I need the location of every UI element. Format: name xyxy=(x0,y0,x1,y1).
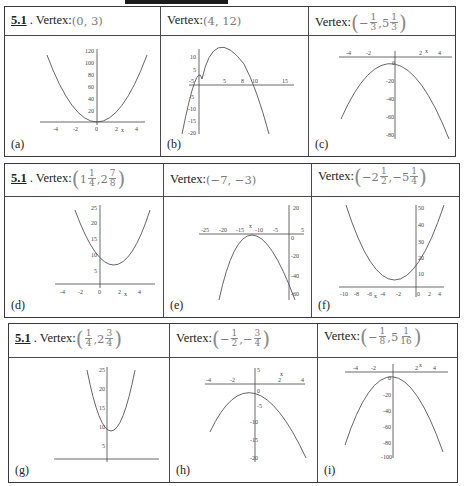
svg-text:20: 20 xyxy=(99,386,105,392)
svg-text:-40: -40 xyxy=(383,408,391,414)
vertex-label: Vertex: xyxy=(170,172,206,187)
svg-text:-60: -60 xyxy=(386,114,394,120)
svg-text:-2: -2 xyxy=(73,126,78,132)
svg-text:5: 5 xyxy=(257,367,260,373)
section-number: 5.1 xyxy=(15,331,31,346)
svg-text:0: 0 xyxy=(95,126,98,132)
vertex-label: Vertex: xyxy=(36,13,72,28)
svg-text:5: 5 xyxy=(193,67,196,73)
cell-c: Vertex: (−13,513) -4-22x4 0-20-40-60-80 … xyxy=(308,7,457,156)
svg-text:2: 2 xyxy=(428,291,431,297)
svg-text:4: 4 xyxy=(135,126,138,132)
svg-text:40: 40 xyxy=(88,96,94,102)
svg-text:-25: -25 xyxy=(201,227,209,233)
section-number: 5.1 xyxy=(11,13,27,28)
svg-text:-20: -20 xyxy=(188,130,196,136)
svg-text:5: 5 xyxy=(223,78,226,84)
vertex-label: Vertex: xyxy=(40,331,76,346)
svg-text:-20: -20 xyxy=(383,392,391,398)
svg-text:-4: -4 xyxy=(53,126,58,132)
vertex-header: 5.1. Vertex: (14,234) xyxy=(15,329,122,348)
vertex-header: Vertex: (−212,−514) xyxy=(318,167,427,186)
svg-text:-2: -2 xyxy=(78,289,83,295)
svg-text:-20: -20 xyxy=(219,227,227,233)
vertex-header: 5.1. Vertex: (0, 3) xyxy=(11,13,103,28)
vertex-value: (4, 12) xyxy=(203,14,241,28)
svg-text:4: 4 xyxy=(138,289,141,295)
svg-text:120: 120 xyxy=(85,48,94,54)
graph-letter: (i) xyxy=(324,463,335,478)
svg-text:-8: -8 xyxy=(354,291,359,297)
problem-block-3: 5.1. Vertex: (14,234) 252015105 (g) Vert… xyxy=(8,323,458,483)
vertex-value: (−212,−514) xyxy=(354,167,427,186)
vertex-value: (−7, −3) xyxy=(206,173,256,187)
svg-text:50: 50 xyxy=(418,205,424,211)
vertex-label: Vertex: xyxy=(318,169,354,184)
graph-a: 12010080604020 -4-202x4 xyxy=(35,39,150,139)
cell-f: Vertex: (−212,−514) 5040302010 -10-8-6x-… xyxy=(311,164,461,317)
svg-text:20: 20 xyxy=(293,205,299,211)
svg-text:-60: -60 xyxy=(383,424,391,430)
vertex-label: Vertex: xyxy=(167,13,203,28)
svg-text:2: 2 xyxy=(419,50,422,56)
graph-h: -4-22x4 50-5-10-15-20 xyxy=(170,362,310,462)
svg-text:0: 0 xyxy=(257,388,260,394)
vertex-header: 5.1. Vertex: (114,278) xyxy=(11,169,125,188)
svg-text:-5: -5 xyxy=(189,78,194,84)
graph-d: 252015105 -4-202x4 xyxy=(50,200,160,300)
svg-text:-2: -2 xyxy=(230,377,235,383)
vertex-value: (−13,513) xyxy=(351,13,407,32)
vertex-header: Vertex: (−7, −3) xyxy=(170,172,256,187)
svg-text:20: 20 xyxy=(418,255,424,261)
svg-text:-4: -4 xyxy=(60,289,65,295)
vertex-header: Vertex: (−18,5116) xyxy=(324,327,422,346)
graph-letter: (g) xyxy=(15,463,29,478)
svg-text:-60: -60 xyxy=(291,291,299,297)
svg-text:25: 25 xyxy=(99,367,105,373)
vertex-label: Vertex: xyxy=(315,15,351,30)
svg-text:-40: -40 xyxy=(386,96,394,102)
graph-c: -4-22x4 0-20-40-60-80 xyxy=(334,39,454,139)
graph-letter: (a) xyxy=(11,137,24,152)
svg-text:-15: -15 xyxy=(188,118,196,124)
svg-text:-15: -15 xyxy=(250,437,258,443)
svg-text:-10: -10 xyxy=(255,227,263,233)
svg-text:5: 5 xyxy=(102,443,105,449)
graph-letter: (c) xyxy=(315,137,328,152)
svg-text:40: 40 xyxy=(418,222,424,228)
svg-text:-80: -80 xyxy=(383,440,391,446)
svg-text:-40: -40 xyxy=(291,273,299,279)
vertex-value: (14,234) xyxy=(76,329,122,348)
svg-text:4: 4 xyxy=(433,365,436,371)
vertex-value: (0, 3) xyxy=(72,14,103,28)
svg-text:2: 2 xyxy=(278,377,281,383)
svg-text:x: x xyxy=(249,223,252,229)
svg-text:0: 0 xyxy=(388,375,391,381)
svg-text:25: 25 xyxy=(91,205,97,211)
svg-text:0: 0 xyxy=(417,291,420,297)
svg-text:10: 10 xyxy=(99,424,105,430)
graph-letter: (f) xyxy=(318,298,330,313)
vertex-header: Vertex: (−13,513) xyxy=(315,13,407,32)
cell-i: Vertex: (−18,5116) -4-22x4 0-20-40-60-80… xyxy=(317,324,459,482)
svg-text:-4: -4 xyxy=(353,365,358,371)
svg-text:x: x xyxy=(121,127,124,133)
graph-letter: (h) xyxy=(176,463,190,478)
svg-text:10: 10 xyxy=(252,78,258,84)
cell-d: 5.1. Vertex: (114,278) 252015105 -4-202x… xyxy=(5,164,163,317)
svg-text:15: 15 xyxy=(91,236,97,242)
svg-text:2: 2 xyxy=(115,126,118,132)
graph-f: 5040302010 -10-8-6x-4-2024 xyxy=(334,200,449,300)
svg-text:8: 8 xyxy=(241,78,244,84)
svg-text:x: x xyxy=(374,293,377,299)
svg-text:4: 4 xyxy=(438,291,441,297)
graph-e: 200-20-40-60 -25-20-15x-10-55 xyxy=(169,200,309,300)
vertex-label: Vertex: xyxy=(36,171,72,186)
svg-text:-2: -2 xyxy=(396,291,401,297)
svg-text:4: 4 xyxy=(301,377,304,383)
svg-text:-5: -5 xyxy=(189,94,194,100)
cell-a: 5.1. Vertex: (0, 3) 12010080604020 -4-20… xyxy=(5,7,160,156)
svg-text:-20: -20 xyxy=(386,78,394,84)
section-number: 5.1 xyxy=(11,171,27,186)
svg-text:x: x xyxy=(425,48,428,54)
